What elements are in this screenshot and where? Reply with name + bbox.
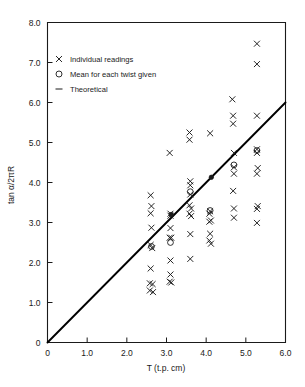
data-point-cross — [254, 113, 259, 118]
data-point-cross — [148, 193, 153, 198]
data-point-cross — [254, 220, 259, 225]
data-point-cross — [230, 188, 235, 193]
data-point-cross — [149, 225, 154, 230]
data-point-cross — [187, 130, 192, 135]
data-points-group — [147, 41, 260, 295]
data-point-cross — [207, 131, 212, 136]
cross-icon — [56, 56, 61, 61]
data-point-mean-filled — [209, 175, 213, 179]
y-tick-label: 3.0 — [29, 218, 41, 228]
data-point-cross — [168, 272, 173, 277]
x-axis-tick-labels: 01.02.03.04.05.06.0 — [45, 348, 292, 358]
x-tick-label: 4.0 — [200, 348, 212, 358]
data-point-mean-filled — [169, 212, 173, 216]
data-point-cross — [168, 258, 173, 263]
series-circle — [149, 148, 260, 250]
data-point-cross — [231, 215, 236, 220]
y-tick-label: 1.0 — [29, 298, 41, 308]
y-tick-label: 5.0 — [29, 138, 41, 148]
data-point-cross — [148, 211, 153, 216]
x-axis-title: T (t.p. cm) — [147, 363, 186, 373]
data-point-mean — [168, 240, 174, 246]
y-tick-label: 4.0 — [29, 178, 41, 188]
y-axis-ticks — [48, 23, 53, 343]
legend-entry-mean: Mean for each twist given — [56, 70, 156, 79]
x-tick-label: 0 — [45, 348, 50, 358]
data-point-cross — [168, 225, 173, 230]
data-point-cross — [207, 219, 212, 224]
y-tick-label: 0 — [36, 338, 41, 348]
data-point-cross — [188, 256, 193, 261]
y-tick-label: 2.0 — [29, 258, 41, 268]
data-point-cross — [255, 165, 260, 170]
x-tick-label: 2.0 — [121, 348, 133, 358]
data-point-cross — [230, 121, 235, 126]
legend-label-individual-readings: Individual readings — [70, 55, 134, 64]
data-point-cross — [188, 231, 193, 236]
legend: Individual readings Mean for each twist … — [56, 55, 157, 94]
data-point-cross — [231, 206, 236, 211]
data-point-cross — [231, 171, 236, 176]
data-point-cross — [167, 150, 172, 155]
y-axis-tick-labels: 01.02.03.04.05.06.07.08.0 — [29, 18, 41, 348]
legend-label-theoretical: Theoretical — [70, 85, 108, 94]
data-point-cross — [207, 231, 212, 236]
data-point-cross — [254, 171, 259, 176]
data-point-cross — [230, 113, 235, 118]
data-point-mean — [187, 189, 193, 195]
series-cross — [147, 41, 260, 295]
legend-entry-theoretical: Theoretical — [56, 85, 108, 94]
theoretical-line-group — [48, 103, 286, 343]
data-point-cross — [254, 41, 259, 46]
x-tick-label: 1.0 — [81, 348, 93, 358]
legend-entry-individual-readings: Individual readings — [56, 55, 133, 64]
y-axis-title: tan α/2πR — [6, 166, 16, 204]
legend-label-mean: Mean for each twist given — [70, 70, 156, 79]
data-point-cross — [188, 213, 193, 218]
scatter-chart-figure: 01.02.03.04.05.06.0 01.02.03.04.05.06.07… — [0, 0, 305, 387]
x-tick-label: 3.0 — [161, 348, 173, 358]
data-point-cross — [149, 203, 154, 208]
data-point-cross — [254, 61, 259, 66]
x-tick-label: 5.0 — [240, 348, 252, 358]
y-tick-label: 8.0 — [29, 18, 41, 28]
data-point-cross — [148, 266, 153, 271]
circle-icon — [56, 71, 62, 77]
y-tick-label: 6.0 — [29, 98, 41, 108]
x-tick-label: 6.0 — [280, 348, 292, 358]
data-point-cross — [187, 137, 192, 142]
chart-canvas: 01.02.03.04.05.06.0 01.02.03.04.05.06.07… — [0, 0, 305, 387]
theoretical-line — [48, 103, 286, 343]
data-point-cross — [230, 97, 235, 102]
data-point-cross — [188, 183, 193, 188]
x-axis-ticks — [48, 338, 286, 343]
y-tick-label: 7.0 — [29, 58, 41, 68]
